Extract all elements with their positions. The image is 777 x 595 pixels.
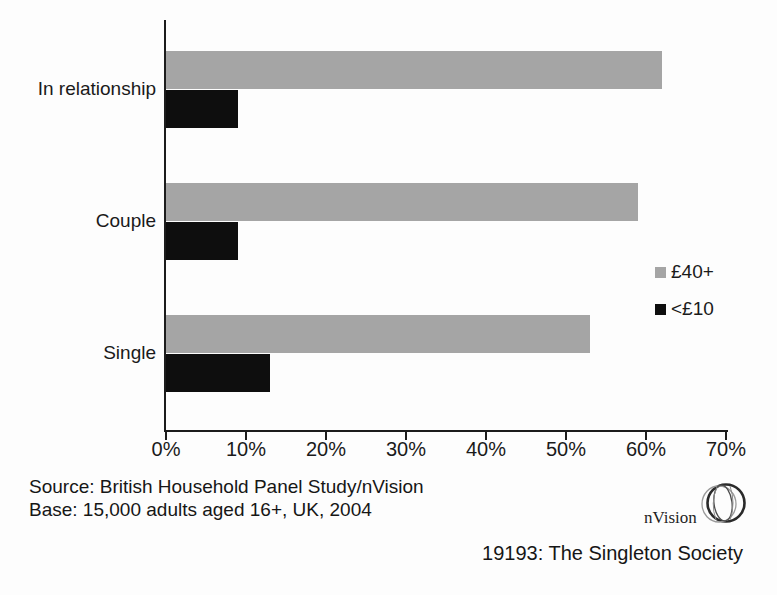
category-label: In relationship <box>0 78 156 100</box>
bar-upper-series <box>166 315 590 353</box>
source-line: Source: British Household Panel Study/nV… <box>29 475 424 498</box>
legend-swatch <box>655 267 666 278</box>
x-tick-label: 0% <box>134 438 198 461</box>
nvision-logo: nVision <box>644 478 748 532</box>
x-tick-label: 30% <box>374 438 438 461</box>
legend-label: £40+ <box>671 261 714 283</box>
globe-sketch-icon <box>696 478 748 534</box>
category-label: Single <box>0 342 156 364</box>
bar-upper-series <box>166 51 662 89</box>
x-tick-label: 20% <box>294 438 358 461</box>
bar-upper-series <box>166 183 638 221</box>
category-label: Couple <box>0 210 156 232</box>
base-line: Base: 15,000 adults aged 16+, UK, 2004 <box>29 498 424 521</box>
x-tick-label: 40% <box>454 438 518 461</box>
bar-lower-series <box>166 222 238 260</box>
x-tick-label: 60% <box>614 438 678 461</box>
source-block: Source: British Household Panel Study/nV… <box>29 475 424 521</box>
legend: £40+<£10 <box>655 262 714 336</box>
legend-swatch <box>655 304 666 315</box>
legend-item: <£10 <box>655 299 714 319</box>
legend-item: £40+ <box>655 262 714 282</box>
x-axis-line <box>164 430 728 432</box>
x-tick-label: 50% <box>534 438 598 461</box>
legend-label: <£10 <box>671 298 714 320</box>
nvision-logo-text: nVision <box>644 508 697 528</box>
chart-caption: 19193: The Singleton Society <box>482 542 743 565</box>
bar-lower-series <box>166 90 238 128</box>
bar-lower-series <box>166 354 270 392</box>
chart-canvas: In relationshipCoupleSingle 0%10%20%30%4… <box>0 0 777 595</box>
x-tick-label: 70% <box>694 438 758 461</box>
x-tick-label: 10% <box>214 438 278 461</box>
